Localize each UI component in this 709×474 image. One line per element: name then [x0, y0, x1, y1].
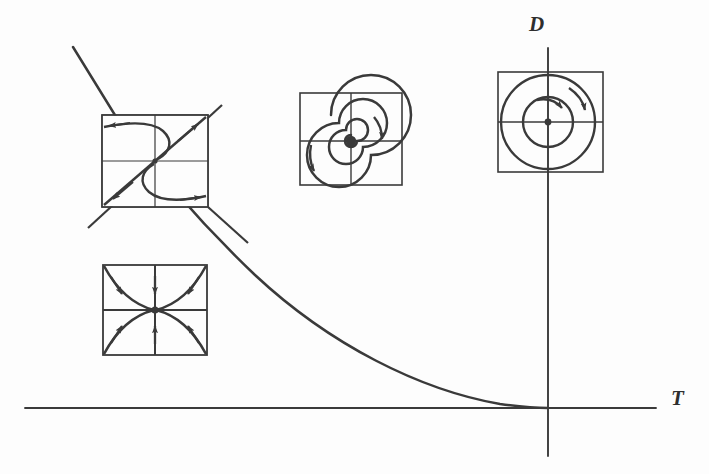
determinant-axis-label: D — [529, 14, 545, 35]
center-inset — [498, 72, 603, 172]
trace-determinant-plane-figure: D T — [0, 0, 709, 474]
saddle-fixed-point — [152, 158, 157, 163]
saddle-inset — [88, 105, 248, 243]
figure-canvas — [0, 0, 709, 474]
spiral-fixed-point — [346, 136, 356, 146]
node-inset — [103, 265, 207, 355]
spiral-inset — [300, 75, 411, 187]
center-fixed-point — [545, 119, 552, 126]
saddle-separatrix-lower-right — [208, 207, 248, 243]
trace-axis-label: T — [671, 388, 684, 409]
node-fixed-point — [151, 306, 158, 313]
